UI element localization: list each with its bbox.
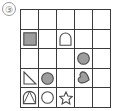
grid-cell-r5c2[interactable] [39, 88, 57, 108]
grid-cell-r2c4[interactable] [75, 30, 93, 50]
grid-cell-r4c2[interactable] [39, 69, 57, 89]
grid-cell-r3c1[interactable] [21, 49, 39, 69]
grid-cell-r4c4[interactable] [75, 69, 93, 89]
grid-cell-r1c5[interactable] [93, 10, 111, 30]
shape-grid [20, 9, 111, 108]
arch-outline-icon [59, 32, 72, 46]
star-outline-icon [59, 91, 73, 105]
grid-cell-r3c2[interactable] [39, 49, 57, 69]
grid-cell-r3c4[interactable] [75, 49, 93, 69]
grid-cell-r1c3[interactable] [57, 10, 75, 30]
item-number-badge: ③ [2, 2, 16, 16]
circle-outline-icon [41, 91, 54, 104]
grid-cell-r5c3[interactable] [57, 88, 75, 108]
circle-filled-icon [77, 52, 90, 65]
grid-cell-r1c4[interactable] [75, 10, 93, 30]
grid-cell-r4c5[interactable] [93, 69, 111, 89]
grid-cell-r5c1[interactable] [21, 88, 39, 108]
grid-cell-r2c1[interactable] [21, 30, 39, 50]
grid-cell-r5c4[interactable] [75, 88, 93, 108]
heart-filled-icon [77, 71, 91, 85]
grid-cell-r3c3[interactable] [57, 49, 75, 69]
grid-cell-r4c1[interactable] [21, 69, 39, 89]
grid-cell-r2c5[interactable] [93, 30, 111, 50]
grid-cell-r1c2[interactable] [39, 10, 57, 30]
grid-cell-r2c2[interactable] [39, 30, 57, 50]
grid-cell-r2c3[interactable] [57, 30, 75, 50]
grid-cell-r3c5[interactable] [93, 49, 111, 69]
square-filled-icon [23, 32, 37, 46]
shape-grid-panel: ③ [0, 0, 115, 111]
grid-cell-r5c5[interactable] [93, 88, 111, 108]
grid-cell-r4c3[interactable] [57, 69, 75, 89]
circle-filled-icon [41, 72, 54, 85]
arch-overlap-outline-icon [22, 90, 37, 105]
grid-cell-r1c1[interactable] [21, 10, 39, 30]
right-triangle-outline-icon [23, 71, 37, 85]
